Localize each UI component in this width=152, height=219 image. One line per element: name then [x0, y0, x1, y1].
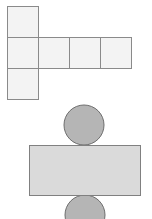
cylinder-top-circle — [64, 105, 104, 145]
cylinder-lateral-rectangle — [30, 146, 141, 196]
cube-face-5 — [101, 38, 132, 69]
cylinder-net — [30, 105, 141, 219]
nets-diagram — [0, 0, 152, 219]
cube-face-6 — [8, 69, 39, 100]
cube-face-3 — [39, 38, 70, 69]
cube-face-1 — [8, 7, 39, 38]
cube-net — [8, 7, 132, 100]
cylinder-bottom-circle — [65, 195, 105, 219]
cube-face-2 — [8, 38, 39, 69]
cube-face-4 — [70, 38, 101, 69]
